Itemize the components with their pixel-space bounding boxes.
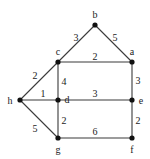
edge-h-g <box>20 100 58 138</box>
edge-c-b <box>58 25 95 62</box>
edge-weight-b-a: 5 <box>113 32 118 43</box>
edge-h-c <box>20 62 58 100</box>
edge-weight-a-e: 3 <box>136 75 141 86</box>
vertex-label-h: h <box>8 95 13 106</box>
vertex-label-f: f <box>130 144 134 155</box>
edge-weight-h-g: 5 <box>33 123 38 134</box>
edge-weight-c-d: 4 <box>62 76 67 87</box>
edge-b-a <box>95 25 132 62</box>
vertex-labels: bcahdegf <box>8 9 144 155</box>
vertex-label-c: c <box>56 46 61 57</box>
edge-weight-c-b: 3 <box>74 32 79 43</box>
edge-weight-g-f: 6 <box>93 126 98 137</box>
edge-weight-h-d: 1 <box>41 88 46 99</box>
vertex-label-e: e <box>139 95 144 106</box>
edge-weight-h-c: 2 <box>33 70 38 81</box>
edge-weight-d-g: 2 <box>62 115 67 126</box>
edge-weight-c-a: 2 <box>93 51 98 62</box>
vertex-g <box>55 135 60 140</box>
weighted-graph-diagram: 352243135226 bcahdegf <box>0 0 150 159</box>
vertex-d <box>55 97 60 102</box>
vertex-label-g: g <box>56 144 61 155</box>
edge-weight-d-e: 3 <box>93 88 98 99</box>
vertex-label-a: a <box>130 46 135 57</box>
vertex-f <box>129 135 134 140</box>
vertex-a <box>129 59 134 64</box>
edge-weights: 352243135226 <box>33 32 141 137</box>
vertex-b <box>92 22 97 27</box>
vertex-e <box>129 97 134 102</box>
vertex-label-b: b <box>93 9 98 20</box>
edge-weight-e-f: 2 <box>136 115 141 126</box>
vertex-c <box>55 59 60 64</box>
vertex-label-d: d <box>65 94 70 105</box>
vertex-h <box>17 97 22 102</box>
